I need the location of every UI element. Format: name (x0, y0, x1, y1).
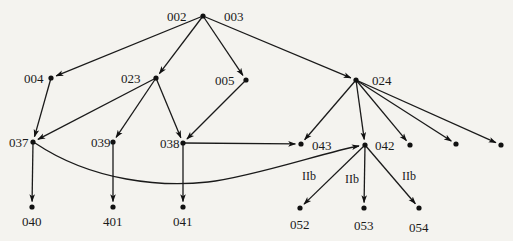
node-dot (297, 205, 302, 210)
edge-n024-n043 (305, 80, 356, 140)
node-label-401: 401 (103, 214, 123, 229)
graph-canvas: IIbIIbIIb0020030040230050240370390380430… (0, 0, 513, 241)
node-label-041: 041 (173, 214, 193, 229)
node-label-005: 005 (215, 73, 235, 88)
edge-n005-n038 (187, 80, 246, 139)
node-dot (362, 142, 367, 147)
node-label-004: 004 (24, 71, 44, 86)
edge-n024-u3 (356, 80, 496, 143)
node-dot (361, 205, 366, 210)
node-label-003: 003 (224, 9, 244, 24)
node-label-052: 052 (290, 217, 310, 232)
node-dot (180, 140, 185, 145)
node-label-038: 038 (160, 136, 180, 151)
node-dot (48, 75, 53, 80)
node-dot (110, 139, 115, 144)
node-dot (353, 77, 358, 82)
node-label-024: 024 (372, 73, 392, 88)
edge-label: IIb (302, 169, 316, 183)
node-label-054: 054 (409, 220, 429, 235)
edge-n004-n037 (35, 78, 51, 137)
node-label-042: 042 (375, 138, 395, 153)
edge-n002-n024 (203, 16, 351, 78)
node-dot (298, 141, 303, 146)
node-dot (30, 139, 35, 144)
node-label-037: 037 (9, 135, 29, 150)
node-dot (180, 204, 185, 209)
edge-n038-n043 (183, 143, 295, 144)
node-dot (407, 142, 412, 147)
edge-n024-u2 (356, 80, 451, 141)
edge-n042-n053 (364, 145, 365, 202)
edges-layer (32, 16, 496, 204)
edge-n023-n038 (156, 78, 181, 138)
node-dot (200, 13, 205, 18)
node-dot (29, 204, 34, 209)
edge-n023-n039 (116, 78, 156, 137)
node-label-043: 043 (312, 138, 332, 153)
node-dot (153, 75, 158, 80)
node-label-023: 023 (121, 71, 141, 86)
node-label-053: 053 (354, 218, 374, 233)
node-label-039: 039 (91, 135, 111, 150)
node-dot (416, 205, 421, 210)
node-dot (453, 141, 458, 146)
edge-label: IIb (402, 169, 416, 183)
edge-n023-n037 (38, 78, 156, 139)
node-label-002: 002 (167, 9, 187, 24)
node-label-040: 040 (22, 214, 42, 229)
node-dot (243, 77, 248, 82)
edge-label: IIb (345, 172, 359, 186)
node-dot (498, 142, 503, 147)
edge-n037-n040 (32, 142, 33, 201)
node-dot (110, 204, 115, 209)
